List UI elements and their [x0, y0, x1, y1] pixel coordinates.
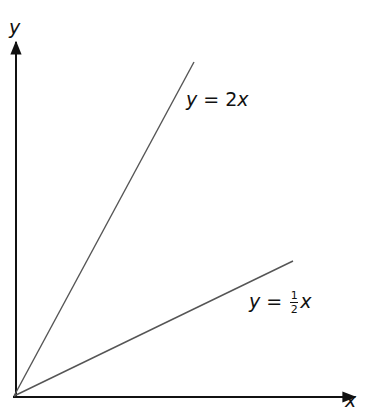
y-axis-label: y — [9, 18, 20, 37]
fraction-one-half: 12 — [290, 290, 298, 315]
diagram-canvas — [0, 0, 372, 412]
x-axis-label: x — [345, 391, 356, 410]
line-y-equals-2x — [14, 62, 194, 396]
frac-num: 1 — [291, 290, 298, 301]
line-y-equals-half-x — [14, 261, 293, 396]
label-var: x — [300, 290, 311, 312]
label-prefix: y = — [249, 290, 288, 312]
label-var: x — [237, 88, 248, 110]
label-y-equals-half-x: y = 12x — [249, 290, 312, 315]
frac-den: 2 — [291, 304, 298, 315]
label-prefix: y = — [186, 88, 225, 110]
label-coef: 2 — [225, 88, 237, 110]
label-y-equals-2x: y = 2x — [186, 90, 249, 109]
